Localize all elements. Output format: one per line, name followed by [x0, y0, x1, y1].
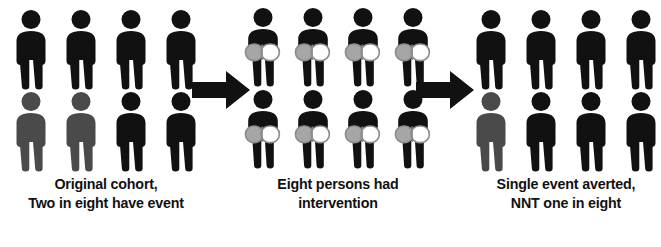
person-icon: [618, 8, 661, 90]
people-grid: [238, 6, 438, 170]
person-icon-event: [58, 90, 104, 172]
person-icon-with-capsule: [290, 6, 336, 88]
panel-caption: Eight persons hadintervention: [235, 174, 441, 212]
person-icon-with-capsule: [240, 88, 286, 170]
person-icon: [518, 8, 564, 90]
panel-original-cohort: Original cohort,Two in eight have event: [6, 0, 206, 247]
person-icon-with-capsule: [240, 6, 286, 88]
caption-line: NNT one in eight: [463, 193, 661, 212]
person-icon: [8, 8, 54, 90]
caption-line: Eight persons had: [235, 174, 441, 193]
person-icon: [108, 8, 154, 90]
caption-line: Original cohort,: [3, 174, 209, 193]
person-icon: [58, 8, 104, 90]
person-icon-event: [468, 90, 514, 172]
panel-caption: Original cohort,Two in eight have event: [3, 174, 209, 212]
person-icon-event: [8, 90, 54, 172]
panel-caption: Single event averted,NNT one in eight: [463, 174, 661, 212]
person-icon: [468, 8, 514, 90]
panel-intervention: Eight persons hadintervention: [238, 0, 438, 247]
person-icon: [518, 90, 564, 172]
person-icon-with-capsule: [340, 6, 386, 88]
person-icon: [568, 90, 614, 172]
panel-outcome: Single event averted,NNT one in eight: [466, 0, 661, 247]
person-icon: [568, 8, 614, 90]
person-icon-with-capsule: [340, 88, 386, 170]
person-icon: [618, 90, 661, 172]
caption-line: intervention: [235, 193, 441, 212]
caption-line: Single event averted,: [463, 174, 661, 193]
person-icon-with-capsule: [290, 88, 336, 170]
nnt-pictogram-figure: Original cohort,Two in eight have event …: [0, 0, 661, 247]
person-icon: [108, 90, 154, 172]
people-grid: [466, 8, 661, 172]
caption-line: Two in eight have event: [3, 193, 209, 212]
people-grid: [6, 8, 206, 172]
